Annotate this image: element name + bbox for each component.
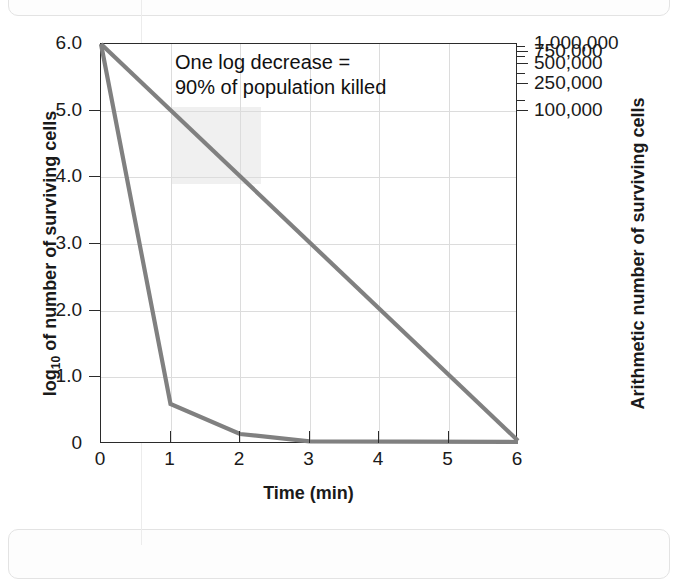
y-tick-right-0 (516, 110, 528, 111)
series-line-0 (101, 44, 518, 441)
y-tick-label-right-4: 1,000,000 (534, 33, 619, 52)
x-tick-label-0: 0 (80, 449, 120, 468)
x-tick-2 (239, 431, 240, 443)
y-tick-left-4 (89, 176, 101, 177)
y-axis-title-left-text: log10 of number of surviving cells (40, 111, 60, 396)
y-tick-label-right-1: 250,000 (534, 73, 603, 92)
x-tick-4 (378, 431, 379, 443)
y-tick-right-2 (516, 63, 528, 64)
y-axis-title-left: log10 of number of surviving cells (40, 44, 61, 464)
y-tick-left-3 (89, 243, 101, 244)
y-axis-title-right: Arithmetic number of surviving cells (628, 44, 649, 464)
y-minor-tick-right-0 (516, 100, 525, 101)
x-tick-1 (170, 431, 171, 443)
x-tick-label-2: 2 (219, 449, 259, 468)
y-tick-left-2 (89, 310, 101, 311)
x-tick-label-1: 1 (150, 449, 190, 468)
y-minor-tick-right-3 (516, 46, 525, 47)
x-tick-3 (309, 431, 310, 443)
chart-annotation: One log decrease = 90% of population kil… (175, 50, 386, 100)
y-tick-left-1 (89, 376, 101, 377)
x-tick-5 (448, 431, 449, 443)
x-tick-label-3: 3 (289, 449, 329, 468)
y-tick-left-5 (89, 110, 101, 111)
plot-area (100, 43, 517, 443)
x-axis-title: Time (min) (100, 483, 517, 504)
x-tick-label-5: 5 (428, 449, 468, 468)
data-curves (101, 44, 518, 444)
y-tick-right-3 (516, 51, 528, 52)
y-tick-label-right-0: 100,000 (534, 100, 603, 119)
x-tick-label-6: 6 (497, 449, 537, 468)
y-minor-tick-right-1 (516, 73, 525, 74)
y-tick-right-1 (516, 83, 528, 84)
y-minor-tick-right-2 (516, 56, 525, 57)
x-tick-label-4: 4 (358, 449, 398, 468)
